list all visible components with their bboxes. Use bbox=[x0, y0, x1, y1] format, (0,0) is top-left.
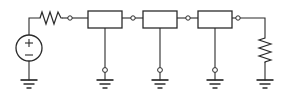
series-resistor-zigzag bbox=[40, 12, 63, 24]
node-box3-to-load bbox=[236, 16, 240, 20]
ground-shunt-3 bbox=[207, 80, 224, 88]
load-resistor-zigzag bbox=[259, 38, 271, 63]
ground-source bbox=[21, 80, 38, 88]
ground-load bbox=[257, 80, 274, 88]
schematic-canvas bbox=[0, 0, 283, 99]
circuit-diagram bbox=[0, 0, 283, 99]
wire-source-top bbox=[29, 18, 40, 35]
node-box2-to-box3 bbox=[186, 16, 190, 20]
wire-node4-to-load bbox=[240, 18, 265, 38]
load-resistor bbox=[259, 38, 271, 63]
shunt-node-1 bbox=[103, 68, 108, 73]
node-box1-to-box2 bbox=[131, 16, 135, 20]
shunt-node-group bbox=[103, 68, 218, 73]
voltage-source-circle bbox=[16, 35, 42, 61]
shunt-node-3 bbox=[213, 68, 218, 73]
two-port-box-3-body bbox=[198, 11, 232, 28]
two-port-box-2 bbox=[143, 11, 177, 28]
series-resistor bbox=[40, 12, 63, 24]
node-source-to-box1 bbox=[68, 16, 72, 20]
ground-shunt-1 bbox=[97, 80, 114, 88]
shunt-node-2 bbox=[158, 68, 163, 73]
two-port-box-3 bbox=[198, 11, 232, 28]
ground-shunt-2 bbox=[152, 80, 169, 88]
voltage-source bbox=[16, 35, 42, 61]
two-port-box-1 bbox=[88, 11, 122, 28]
two-port-box-1-body bbox=[88, 11, 122, 28]
two-port-box-2-body bbox=[143, 11, 177, 28]
